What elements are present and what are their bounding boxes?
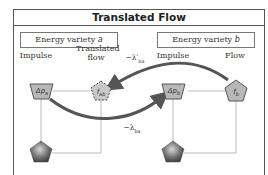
upper-edge-label: −λ′ba (121, 53, 149, 66)
impulse-a-node-label: Δpa (31, 87, 53, 98)
bottom-pentagon-a (30, 141, 52, 162)
lower-edge-label: −λba (118, 123, 146, 136)
impulse-b-node-label: Δpb (163, 87, 185, 98)
flow-b-node-label: fb (227, 88, 245, 99)
upper-arrow (112, 63, 228, 86)
bottom-pentagon-b (162, 141, 184, 162)
wires (41, 91, 236, 153)
translated-flow-node-label: fab (92, 88, 110, 99)
